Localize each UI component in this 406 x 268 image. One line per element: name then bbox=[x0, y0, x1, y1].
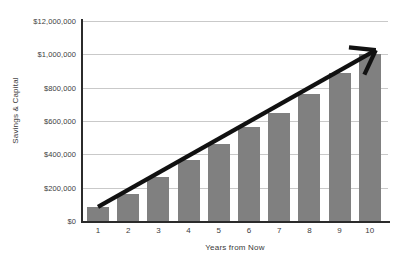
x-axis-tick-label: 9 bbox=[337, 226, 341, 235]
x-axis-tick-label: 2 bbox=[126, 226, 130, 235]
x-axis-tick-label: 5 bbox=[217, 226, 221, 235]
bar bbox=[208, 144, 230, 222]
gridline bbox=[82, 21, 388, 22]
x-axis-title: Years from Now bbox=[82, 243, 388, 252]
x-axis-tick-label: 7 bbox=[277, 226, 281, 235]
y-axis-title: Savings & Capital bbox=[9, 3, 23, 218]
y-axis-tick-label: $0 bbox=[22, 217, 76, 226]
plot-area bbox=[82, 21, 388, 221]
gridline bbox=[82, 54, 388, 55]
bar bbox=[87, 207, 109, 221]
x-axis-line bbox=[82, 221, 390, 223]
y-axis-tick-label: $400,000 bbox=[22, 150, 76, 159]
y-axis-tick-label: $12,000,000 bbox=[22, 17, 76, 26]
y-axis-tick-label: $200,000 bbox=[22, 183, 76, 192]
y-axis-tick-label: $600,000 bbox=[22, 117, 76, 126]
bar bbox=[178, 160, 200, 221]
savings-capital-bar-chart: Savings & Capital $0$200,000$400,000$600… bbox=[0, 0, 406, 268]
y-axis-tick-label: $800,000 bbox=[22, 83, 76, 92]
bar bbox=[359, 54, 381, 221]
x-axis-tick-label: 10 bbox=[365, 226, 374, 235]
bar bbox=[329, 73, 351, 221]
x-axis-tick-label: 1 bbox=[96, 226, 100, 235]
x-axis-tick-labels: 12345678910 bbox=[82, 226, 388, 240]
bar bbox=[298, 94, 320, 221]
y-axis-tick-label: $1,000,000 bbox=[22, 50, 76, 59]
bar bbox=[117, 194, 139, 221]
x-axis-tick-label: 3 bbox=[156, 226, 160, 235]
x-axis-tick-label: 4 bbox=[186, 226, 190, 235]
x-axis-tick-label: 8 bbox=[307, 226, 311, 235]
y-axis-tick-labels: $0$200,000$400,000$600,000$800,000$1,000… bbox=[22, 0, 76, 268]
bar bbox=[147, 177, 169, 221]
x-axis-tick-label: 6 bbox=[247, 226, 251, 235]
y-axis-line bbox=[81, 19, 83, 223]
bar bbox=[268, 113, 290, 221]
bar bbox=[238, 127, 260, 221]
